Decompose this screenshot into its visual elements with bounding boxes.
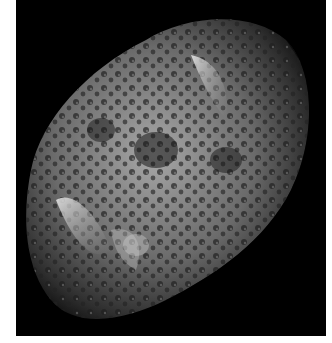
crater	[210, 147, 242, 173]
crater	[87, 118, 115, 142]
moon-photo: Saturn's moon Hyperion, a sponge-like cr…	[16, 0, 326, 336]
crater	[134, 132, 178, 168]
crater	[123, 234, 149, 256]
hyperion-illustration	[16, 0, 326, 336]
